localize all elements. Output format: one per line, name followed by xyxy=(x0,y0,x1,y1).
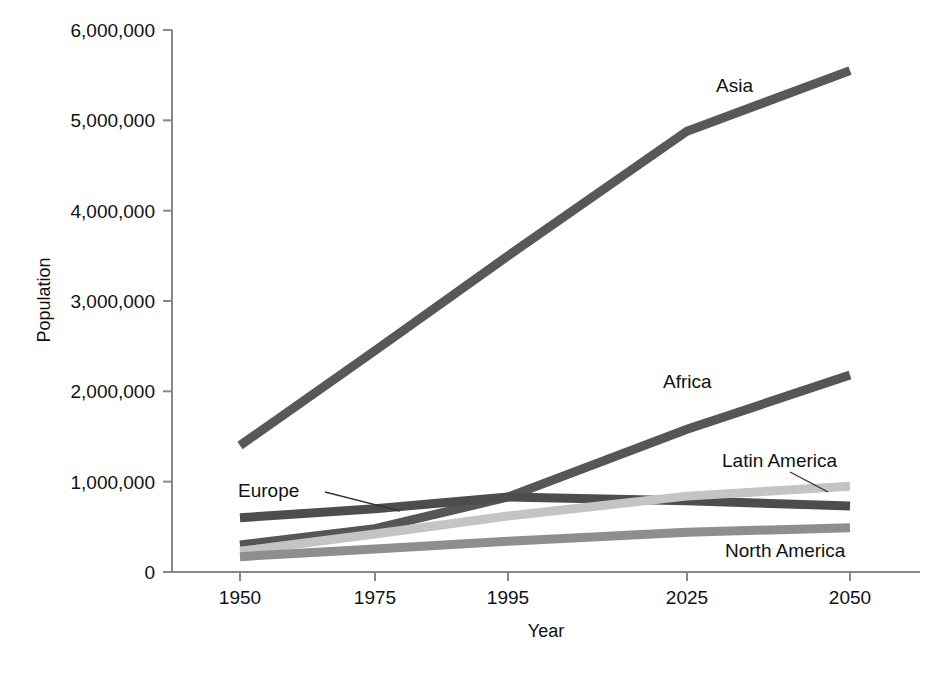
population-line-chart: 01,000,0002,000,0003,000,0004,000,0005,0… xyxy=(0,0,946,688)
series-label-asia: Asia xyxy=(716,75,753,96)
y-tick-label: 0 xyxy=(144,562,155,583)
y-tick-label: 3,000,000 xyxy=(70,291,155,312)
x-tick-label: 2050 xyxy=(829,587,871,608)
x-tick-label: 1995 xyxy=(487,587,529,608)
y-tick-label: 2,000,000 xyxy=(70,381,155,402)
x-tick-label: 1950 xyxy=(219,587,261,608)
chart-canvas: 01,000,0002,000,0003,000,0004,000,0005,0… xyxy=(0,0,946,688)
y-axis-title: Population xyxy=(34,257,54,342)
y-tick-label: 5,000,000 xyxy=(70,110,155,131)
y-tick-label: 4,000,000 xyxy=(70,201,155,222)
x-tick-label: 2025 xyxy=(666,587,708,608)
series-label-north-america: North America xyxy=(725,540,846,561)
chart-background xyxy=(0,0,946,688)
y-tick-label: 1,000,000 xyxy=(70,472,155,493)
x-axis-title: Year xyxy=(528,621,564,641)
x-tick-label: 1975 xyxy=(354,587,396,608)
series-label-latin-america: Latin America xyxy=(722,450,838,471)
y-tick-label: 6,000,000 xyxy=(70,20,155,41)
series-label-europe: Europe xyxy=(238,480,299,501)
series-label-africa: Africa xyxy=(663,371,712,392)
